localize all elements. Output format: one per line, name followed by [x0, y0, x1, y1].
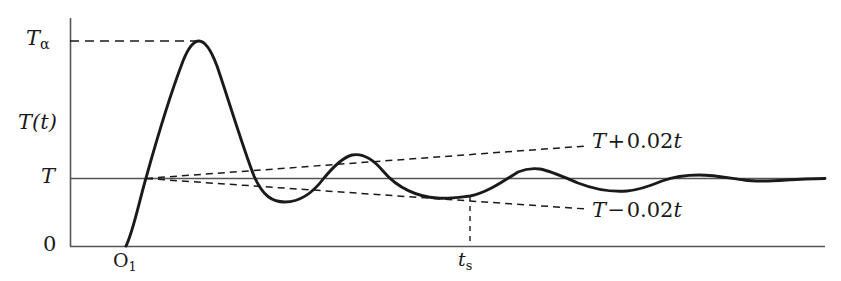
time-origin-label: O1: [113, 249, 137, 274]
time-origin-subscript: 1: [129, 259, 137, 274]
settling-time-subscript: s: [466, 258, 473, 273]
lower-envelope-operator: −: [606, 198, 627, 222]
steady-state-symbol: T: [41, 164, 55, 188]
damped-response-figure: Tα T(t) T 0 O1 ts T+0.02t T−0.02t: [0, 0, 841, 281]
upper-envelope-base: T: [592, 129, 606, 153]
upper-envelope-variable: t: [673, 129, 681, 153]
time-origin-symbol: O: [113, 249, 129, 271]
plot-canvas: [0, 0, 841, 281]
upper-envelope-label: T+0.02t: [592, 129, 682, 153]
settling-time-symbol: t: [458, 248, 466, 270]
y-axis-title-base: T: [18, 110, 32, 134]
response-curve: [126, 41, 825, 246]
y-axis-title: T(t): [18, 110, 57, 134]
lower-envelope-coefficient: 0.02: [627, 198, 674, 222]
lower-envelope-label: T−0.02t: [592, 198, 682, 222]
origin-label: 0: [43, 232, 56, 256]
lower-envelope-dashed-line: [146, 179, 586, 210]
peak-value-subscript: α: [40, 36, 50, 52]
peak-value-symbol: T: [26, 26, 40, 50]
upper-envelope-dashed-line: [146, 146, 586, 179]
peak-value-label: Tα: [26, 26, 50, 52]
y-axis-title-arg: (t): [32, 110, 57, 134]
settling-time-label: ts: [458, 248, 472, 273]
origin-value: 0: [43, 232, 56, 256]
lower-envelope-variable: t: [673, 198, 681, 222]
lower-envelope-base: T: [592, 198, 606, 222]
steady-state-label: T: [41, 164, 55, 188]
upper-envelope-operator: +: [606, 129, 627, 153]
upper-envelope-coefficient: 0.02: [627, 129, 674, 153]
